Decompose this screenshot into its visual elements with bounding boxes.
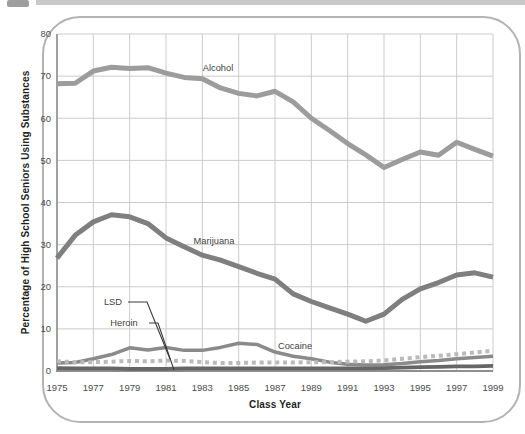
x-tick-label: 1981 (155, 382, 176, 393)
x-tick-label: 1979 (119, 382, 140, 393)
y-tick-label: 30 (40, 239, 51, 250)
series-label-lsd: LSD (104, 297, 122, 307)
x-tick-label: 1995 (410, 382, 431, 393)
y-tick-label: 10 (40, 323, 51, 334)
x-tick-label: 1997 (446, 382, 467, 393)
x-tick-label: 1993 (373, 382, 394, 393)
y-tick-label: 20 (40, 281, 51, 292)
y-tick-label: 80 (40, 28, 51, 39)
series-label-heroin: Heroin (110, 318, 137, 328)
x-tick-label: 1975 (46, 382, 67, 393)
y-tick-label: 50 (40, 155, 51, 166)
x-axis-title: Class Year (249, 399, 301, 410)
y-tick-label: 0 (46, 365, 51, 376)
x-tick-label: 1987 (264, 382, 285, 393)
line-chart: 0102030405060708019751977197919811983198… (0, 0, 525, 434)
y-tick-label: 70 (40, 70, 51, 81)
x-tick-label: 1989 (301, 382, 322, 393)
x-tick-label: 1977 (83, 382, 104, 393)
x-tick-label: 1985 (228, 382, 249, 393)
x-tick-label: 1999 (482, 382, 503, 393)
y-tick-label: 60 (40, 113, 51, 124)
figure-page: 0102030405060708019751977197919811983198… (0, 0, 525, 434)
series-label-alcohol: Alcohol (203, 63, 234, 73)
series-label-marijuana: Marijuana (194, 236, 236, 246)
series-label-cocaine: Cocaine (278, 341, 312, 351)
y-tick-label: 40 (40, 197, 51, 208)
x-tick-label: 1983 (192, 382, 213, 393)
x-tick-label: 1991 (337, 382, 358, 393)
y-axis-title: Percentage of High School Seniors Using … (20, 70, 31, 334)
